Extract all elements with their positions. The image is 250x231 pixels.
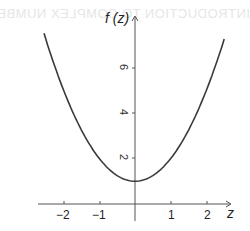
y-tick-label: 4	[118, 107, 130, 117]
y-axis-label: f (z)	[105, 10, 129, 26]
function-curve	[44, 33, 224, 181]
y-tick-label: 6	[118, 62, 130, 72]
y-tick-label: 2	[118, 152, 130, 162]
x-tick-label: 2	[204, 208, 211, 222]
x-tick-label: 1	[168, 208, 175, 222]
x-tick-label: −2	[56, 208, 70, 222]
x-tick-label: −1	[92, 208, 106, 222]
x-axis-label: z	[227, 205, 234, 221]
